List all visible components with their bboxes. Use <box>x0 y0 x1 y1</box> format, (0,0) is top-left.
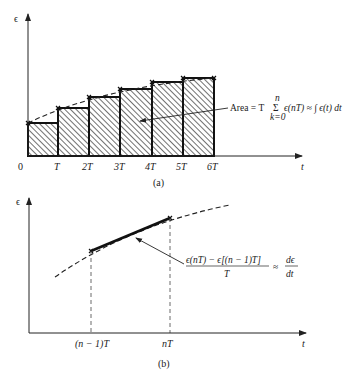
x-ticks-a: T 2T 3T 4T 5T 6T <box>54 161 219 172</box>
bar-5 <box>152 82 183 156</box>
area-formula: Area = T Σ n k=0 ϵ(nT) ≈ ∫ ϵ(t) dt <box>230 93 342 122</box>
x-axis-label-a: t <box>301 161 304 172</box>
y-axis-label-b: ϵ <box>16 196 20 207</box>
tick-n-minus-1: (n − 1)T <box>75 338 110 350</box>
svg-text:Area = T: Area = T <box>230 103 264 113</box>
bar-1 <box>28 123 58 156</box>
x-axis-label-b: t <box>302 338 305 349</box>
svg-text:6T: 6T <box>207 161 219 172</box>
panel-a: ϵ t 0 T 2T 3T 4T 5T 6T Area = T Σ n k=0 … <box>14 13 342 189</box>
bar-3 <box>89 97 120 156</box>
svg-text:2T: 2T <box>82 161 94 172</box>
svg-text:3T: 3T <box>113 161 126 172</box>
origin-label: 0 <box>18 161 23 172</box>
slope-pointer-arrow <box>136 238 184 264</box>
bar-6 <box>183 78 214 156</box>
svg-text:T: T <box>54 161 61 172</box>
svg-text:dϵ: dϵ <box>286 255 296 265</box>
secant-chord <box>91 218 170 251</box>
y-axis-label-a: ϵ <box>14 13 18 24</box>
svg-text:n: n <box>275 93 280 103</box>
bar-4 <box>120 89 152 156</box>
diagram-canvas: ϵ t 0 T 2T 3T 4T 5T 6T Area = T Σ n k=0 … <box>0 0 364 385</box>
svg-text:≈: ≈ <box>273 262 278 272</box>
svg-text:k=0: k=0 <box>270 112 286 122</box>
caption-b: (b) <box>158 358 170 370</box>
svg-text:4T: 4T <box>145 161 157 172</box>
slope-formula: ϵ(nT) − ϵ[(n − 1)T] T ≈ dϵ dt <box>186 255 298 279</box>
bar-2 <box>58 108 89 156</box>
svg-text:5T: 5T <box>176 161 188 172</box>
tick-n: nT <box>162 338 174 349</box>
panel-b: ϵ t (n − 1)T nT ϵ(nT) − ϵ[(n − 1)T] T ≈ … <box>16 196 306 370</box>
caption-a: (a) <box>153 177 164 189</box>
svg-text:dt: dt <box>286 269 294 279</box>
svg-text:ϵ(nT) ≈ ∫ ϵ(t) dt: ϵ(nT) ≈ ∫ ϵ(t) dt <box>284 103 342 114</box>
svg-text:ϵ(nT) − ϵ[(n − 1)T]: ϵ(nT) − ϵ[(n − 1)T] <box>186 255 261 266</box>
svg-text:T: T <box>224 269 230 279</box>
